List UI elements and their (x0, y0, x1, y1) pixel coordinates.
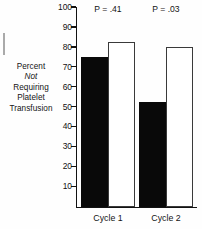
bar-filled-cycle-2 (139, 102, 166, 207)
y-axis-line (76, 7, 77, 208)
bar-filled-cycle-1 (81, 57, 108, 207)
x-axis-category-label: Cycle 2 (125, 214, 202, 223)
y-axis-tick-label-group: 102030405060708090100 (50, 0, 72, 229)
y-axis-tick (71, 86, 76, 87)
y-axis-tick (71, 186, 76, 187)
p-value-label: P = .03 (125, 5, 202, 14)
y-axis-tick (71, 106, 76, 107)
x-axis-line (76, 207, 197, 208)
y-axis-tick (71, 146, 76, 147)
y-axis-tick (71, 166, 76, 167)
plot-area: P = .41P = .03 Cycle 1Cycle 2 (76, 0, 202, 229)
y-axis-tick (71, 46, 76, 47)
bar-open-cycle-2 (166, 47, 193, 207)
bar-open-cycle-1 (108, 42, 135, 207)
y-axis-tick (71, 66, 76, 67)
y-axis-tick (71, 126, 76, 127)
scan-artifact-mark (3, 33, 5, 55)
y-axis-tick (71, 26, 76, 27)
chart-figure: Percent Not Requiring Platelet Transfusi… (0, 0, 202, 229)
